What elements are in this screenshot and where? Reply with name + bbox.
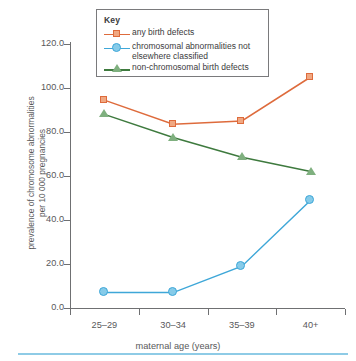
y-tick-mark bbox=[64, 44, 70, 45]
data-point-marker bbox=[168, 287, 177, 296]
x-tick-label: 30–34 bbox=[143, 320, 203, 330]
data-point-marker bbox=[100, 96, 107, 103]
legend-label: chromosomal abnormalities not elsewhere … bbox=[130, 41, 250, 61]
x-tick-label: 35–39 bbox=[212, 320, 272, 330]
x-tick-label: 40+ bbox=[281, 320, 341, 330]
series-line bbox=[104, 77, 310, 124]
data-point-marker bbox=[99, 109, 109, 117]
y-axis-line bbox=[70, 42, 71, 309]
legend-swatch bbox=[104, 42, 130, 54]
y-tick-mark bbox=[64, 88, 70, 89]
legend-item: non-chromosomal birth defects bbox=[104, 62, 262, 75]
legend-item: chromosomal abnormalities not elsewhere … bbox=[104, 41, 262, 61]
y-tick-label: 120.0 bbox=[41, 39, 64, 48]
legend-label: any birth defects bbox=[130, 27, 194, 37]
square-marker-icon bbox=[113, 30, 120, 37]
circle-marker-icon bbox=[112, 43, 121, 52]
series-line bbox=[104, 114, 310, 171]
y-tick-mark bbox=[64, 264, 70, 265]
data-point-marker bbox=[169, 120, 176, 127]
legend-swatch bbox=[104, 63, 130, 75]
y-tick-mark bbox=[64, 132, 70, 133]
legend-swatch bbox=[104, 28, 130, 40]
y-tick-label: 40.0 bbox=[46, 215, 64, 224]
data-point-marker bbox=[237, 117, 244, 124]
x-tick-mark bbox=[70, 309, 71, 315]
y-tick-label: 20.0 bbox=[46, 259, 64, 268]
y-tick-label: 60.0 bbox=[46, 171, 64, 180]
chart-figure: prevalence of chromosome abnormalities p… bbox=[0, 0, 356, 361]
data-point-marker bbox=[168, 133, 178, 141]
x-tick-mark bbox=[208, 309, 209, 315]
data-point-marker bbox=[306, 73, 313, 80]
data-point-marker bbox=[99, 287, 108, 296]
x-axis-title: maternal age (years) bbox=[0, 341, 356, 351]
legend-label: non-chromosomal birth defects bbox=[130, 62, 249, 72]
legend-title: Key bbox=[104, 15, 262, 25]
data-point-marker bbox=[236, 261, 245, 270]
y-tick-mark bbox=[64, 176, 70, 177]
triangle-marker-icon bbox=[112, 64, 122, 72]
x-tick-mark bbox=[345, 309, 346, 315]
bottom-rule bbox=[18, 353, 348, 355]
y-tick-label: 0.0 bbox=[51, 303, 64, 312]
legend-box: Key any birth defectschromosomal abnorma… bbox=[96, 9, 269, 77]
x-tick-mark bbox=[276, 309, 277, 315]
y-tick-label: 100.0 bbox=[41, 83, 64, 92]
x-tick-label: 25–29 bbox=[74, 320, 134, 330]
data-point-marker bbox=[237, 152, 247, 160]
legend-item: any birth defects bbox=[104, 27, 262, 40]
y-tick-mark bbox=[64, 220, 70, 221]
y-tick-label: 80.0 bbox=[46, 127, 64, 136]
series-line bbox=[104, 200, 310, 292]
data-point-marker bbox=[306, 167, 316, 175]
data-point-marker bbox=[305, 195, 314, 204]
x-tick-mark bbox=[139, 309, 140, 315]
